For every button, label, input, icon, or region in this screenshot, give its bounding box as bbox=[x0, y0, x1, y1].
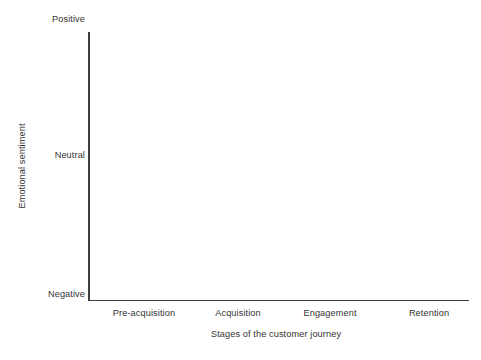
y-axis-line bbox=[88, 32, 90, 301]
x-tick-label-retention: Retention bbox=[409, 308, 449, 319]
x-tick-label-pre-acquisition: Pre-acquisition bbox=[113, 308, 175, 319]
y-axis-title: Emotional sentiment bbox=[17, 123, 28, 208]
x-axis-line bbox=[88, 300, 469, 302]
y-tick-label-neutral: Neutral bbox=[0, 150, 85, 161]
x-axis-title: Stages of the customer journey bbox=[211, 329, 341, 340]
x-tick-label-engagement: Engagement bbox=[303, 308, 356, 319]
y-tick-label-negative: Negative bbox=[0, 289, 85, 300]
y-tick-label-positive: Positive bbox=[0, 14, 85, 25]
chart-figure: Positive Neutral Negative Emotional sent… bbox=[0, 0, 481, 360]
x-tick-label-acquisition: Acquisition bbox=[215, 308, 261, 319]
plot-area bbox=[90, 32, 469, 300]
